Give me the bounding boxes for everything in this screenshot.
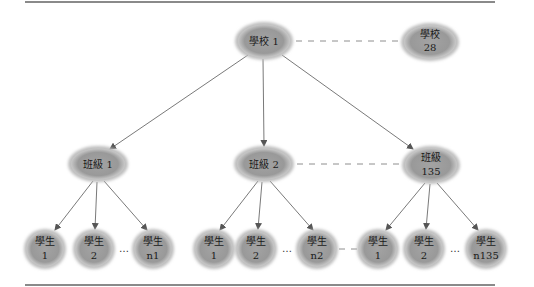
edge-root-class1 xyxy=(110,55,248,149)
edge-class2-s2 xyxy=(258,182,262,229)
node-student-c135-n135: 學生 n135 xyxy=(465,229,507,269)
edge-class1-s1 xyxy=(55,181,93,230)
svg-text:學生: 學生 xyxy=(35,235,55,247)
tree-diagram: 學校 1 學校 28 班級 1 班級 2 班級 135 學生 1 學生 2 … xyxy=(0,0,534,287)
svg-text:1: 1 xyxy=(375,250,381,261)
node-student-c135-1: 學生 1 xyxy=(357,229,399,269)
node-student-c135-2: 學生 2 xyxy=(403,229,445,269)
edge-class1-n1 xyxy=(104,181,147,230)
node-class-1: 班級 1 xyxy=(68,146,128,182)
ellipsis-c135: … xyxy=(450,243,460,254)
node-student-c2-2: 學生 2 xyxy=(235,229,277,269)
svg-text:學生: 學生 xyxy=(84,235,104,247)
svg-text:學生: 學生 xyxy=(143,235,163,247)
edge-class2-s1 xyxy=(220,181,258,230)
svg-text:n2: n2 xyxy=(311,250,324,261)
svg-text:班級 2: 班級 2 xyxy=(249,158,279,170)
edge-root-class135 xyxy=(282,55,413,149)
svg-text:學生: 學生 xyxy=(414,235,434,247)
edge-root-class2 xyxy=(263,59,264,146)
node-student-c1-n1: 學生 n1 xyxy=(132,229,174,269)
node-class-2: 班級 2 xyxy=(234,146,294,182)
svg-text:學生: 學生 xyxy=(204,235,224,247)
edge-class135-n135 xyxy=(437,183,478,230)
svg-text:學校: 學校 xyxy=(420,28,440,40)
svg-text:班級 1: 班級 1 xyxy=(83,158,113,170)
node-student-c1-1: 學生 1 xyxy=(24,229,66,269)
edge-class2-n2 xyxy=(270,181,313,230)
edge-class135-s2 xyxy=(426,184,430,229)
svg-text:學生: 學生 xyxy=(476,235,496,247)
svg-text:135: 135 xyxy=(421,166,440,177)
ellipsis-c1: … xyxy=(119,243,129,254)
svg-text:學校 1: 學校 1 xyxy=(249,35,279,47)
svg-text:1: 1 xyxy=(42,250,48,261)
node-student-c2-n2: 學生 n2 xyxy=(296,229,338,269)
edge-class135-s1 xyxy=(386,183,425,230)
svg-text:2: 2 xyxy=(421,250,427,261)
svg-text:n135: n135 xyxy=(473,250,499,261)
svg-text:班級: 班級 xyxy=(421,151,441,163)
node-student-c1-2: 學生 2 xyxy=(73,229,115,269)
svg-text:學生: 學生 xyxy=(246,235,266,247)
svg-text:28: 28 xyxy=(424,42,437,53)
node-student-c2-1: 學生 1 xyxy=(193,229,235,269)
svg-text:1: 1 xyxy=(211,250,217,261)
svg-text:學生: 學生 xyxy=(368,235,388,247)
edge-class1-s2 xyxy=(95,182,97,229)
node-school-28: 學校 28 xyxy=(401,23,459,61)
svg-text:2: 2 xyxy=(253,250,259,261)
node-class-135: 班級 135 xyxy=(402,146,460,184)
svg-text:2: 2 xyxy=(91,250,97,261)
svg-text:n1: n1 xyxy=(147,250,160,261)
ellipsis-c2: … xyxy=(282,243,292,254)
node-root-school: 學校 1 xyxy=(235,22,293,60)
svg-text:學生: 學生 xyxy=(307,235,327,247)
